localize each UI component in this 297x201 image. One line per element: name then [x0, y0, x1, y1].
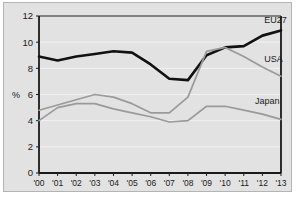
y-axis-tick-label: 2: [28, 141, 33, 152]
x-axis-ticks-group: '00'01'02'03'04'05'06'07'08'09'10'11'12'…: [33, 173, 286, 188]
x-axis-tick-label: '11: [239, 178, 250, 188]
gridlines-group: [39, 16, 281, 147]
series-line-eu27: [39, 30, 281, 80]
y-axis-tick-label: 10: [22, 37, 33, 48]
x-axis-tick-label: '05: [127, 178, 138, 188]
x-axis-tick-label: '02: [71, 178, 82, 188]
series-lines-group: [39, 30, 281, 122]
series-label-usa: USA: [264, 54, 283, 64]
y-axis-tick-label: 8: [28, 63, 33, 74]
x-axis-tick-label: '08: [182, 178, 193, 188]
y-axis-unit-label: %: [12, 90, 20, 100]
x-axis-tick-label: '12: [257, 178, 268, 188]
y-axis-tick-label: 0: [28, 167, 33, 178]
series-labels-group: EU27USAJapan: [255, 15, 287, 106]
x-axis-tick-label: '10: [220, 178, 231, 188]
x-axis-tick-label: '13: [275, 178, 286, 188]
x-axis-tick-label: '01: [52, 178, 63, 188]
x-axis-tick-label: '06: [145, 178, 156, 188]
x-axis-tick-label: '00: [33, 178, 44, 188]
y-axis-tick-label: 4: [28, 115, 33, 126]
y-axis-tick-label: 12: [22, 10, 33, 21]
series-label-eu27: EU27: [264, 15, 287, 25]
chart-screenshot: 024681012 '00'01'02'03'04'05'06'07'08'09…: [0, 0, 297, 201]
chart-figure: 024681012 '00'01'02'03'04'05'06'07'08'09…: [3, 2, 292, 192]
x-axis-tick-label: '03: [89, 178, 100, 188]
y-axis-tick-label: 6: [28, 89, 33, 100]
x-axis-tick-label: '04: [108, 178, 119, 188]
y-axis-ticks-group: 024681012: [22, 10, 39, 178]
line-chart-svg: 024681012 '00'01'02'03'04'05'06'07'08'09…: [4, 3, 293, 193]
series-label-japan: Japan: [255, 96, 280, 106]
x-axis-tick-label: '09: [201, 178, 212, 188]
x-axis-tick-label: '07: [164, 178, 175, 188]
